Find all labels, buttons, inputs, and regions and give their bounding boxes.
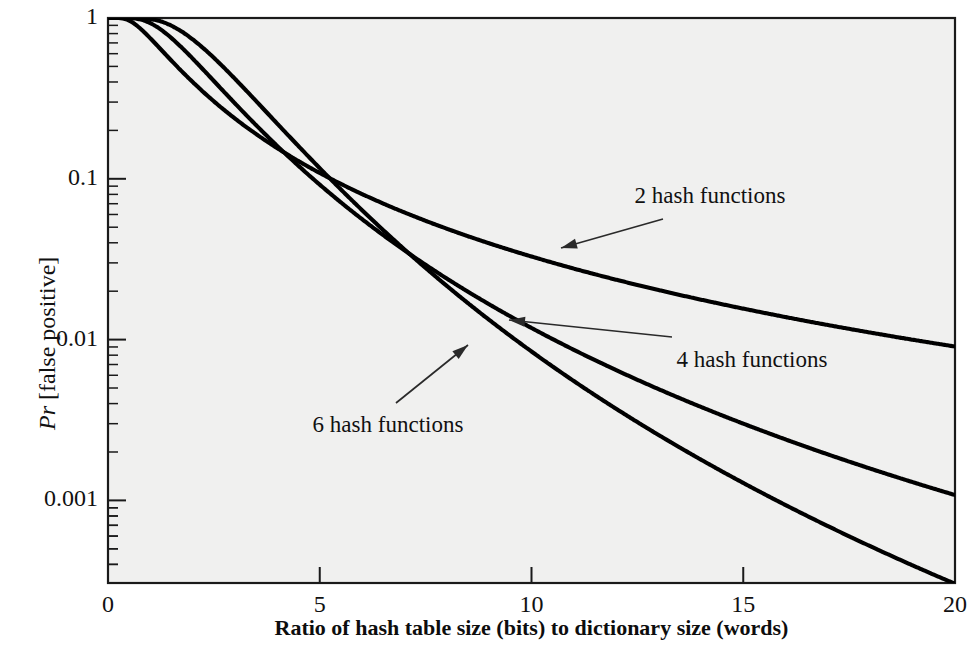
annotation-4-hash-functions: 4 hash functions bbox=[677, 347, 828, 373]
annotation-2-hash-functions: 2 hash functions bbox=[635, 183, 786, 209]
y-tick-label-0: 1 bbox=[86, 3, 98, 30]
y-tick-label-1: 0.1 bbox=[68, 164, 98, 191]
chart-svg bbox=[0, 0, 974, 657]
y-axis-title: Pr [false positive] bbox=[34, 257, 61, 430]
y-axis-title-suffix: [false positive] bbox=[34, 257, 60, 406]
y-tick-label-3: 0.001 bbox=[44, 485, 98, 512]
x-tick-label-0: 0 bbox=[102, 591, 114, 618]
y-tick-label-2: 0.01 bbox=[56, 325, 98, 352]
x-tick-label-3: 15 bbox=[731, 591, 755, 618]
x-tick-label-4: 20 bbox=[943, 591, 967, 618]
y-axis-title-pr: Pr bbox=[34, 406, 60, 430]
x-axis-title: Ratio of hash table size (bits) to dicti… bbox=[275, 615, 789, 641]
annotation-6-hash-functions: 6 hash functions bbox=[313, 412, 464, 438]
x-tick-label-2: 10 bbox=[520, 591, 544, 618]
x-tick-label-1: 5 bbox=[314, 591, 326, 618]
figure-canvas: to the hash table, we set to 1. Check fo… bbox=[0, 0, 974, 657]
